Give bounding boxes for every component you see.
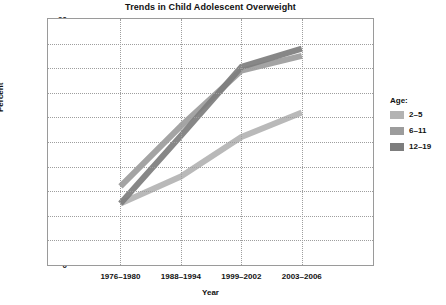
legend-swatch-icon (390, 127, 404, 135)
gridline-h (48, 191, 373, 192)
gridline-v (302, 19, 303, 265)
x-tick-1: 1988–1994 (161, 272, 201, 281)
chart-figure: Trends in Child Adolescent Overweight Pe… (0, 0, 446, 305)
x-axis-label: Year (47, 288, 374, 297)
legend: Age: 2–56–1112–19 (390, 96, 446, 158)
legend-swatch-icon (390, 143, 404, 151)
plot-area (47, 18, 374, 266)
x-tick-3: 2003–2006 (282, 272, 322, 281)
legend-entries: 2–56–1112–19 (390, 110, 446, 151)
gridline-h (48, 44, 373, 45)
gridline-v (120, 19, 121, 265)
legend-item-2–5[interactable]: 2–5 (390, 110, 446, 119)
gridline-h (48, 117, 373, 118)
legend-item-12–19[interactable]: 12–19 (390, 142, 446, 151)
gridline-v (181, 19, 182, 265)
gridline-v (241, 19, 242, 265)
x-tick-2: 1999–2002 (221, 272, 261, 281)
legend-item-6–11[interactable]: 6–11 (390, 126, 446, 135)
gridline-h (48, 240, 373, 241)
legend-label: 12–19 (409, 142, 431, 151)
gridline-h (48, 68, 373, 69)
gridline-h (48, 167, 373, 168)
legend-label: 6–11 (409, 126, 426, 135)
y-axis-label: Percent (0, 83, 5, 112)
gridline-h (48, 142, 373, 143)
chart-title: Trends in Child Adolescent Overweight (47, 2, 374, 12)
legend-swatch-icon (390, 111, 404, 119)
x-tick-0: 1976–1980 (100, 272, 140, 281)
gridline-h (48, 93, 373, 94)
gridline-h (48, 216, 373, 217)
legend-title: Age: (390, 96, 446, 105)
legend-label: 2–5 (409, 110, 422, 119)
